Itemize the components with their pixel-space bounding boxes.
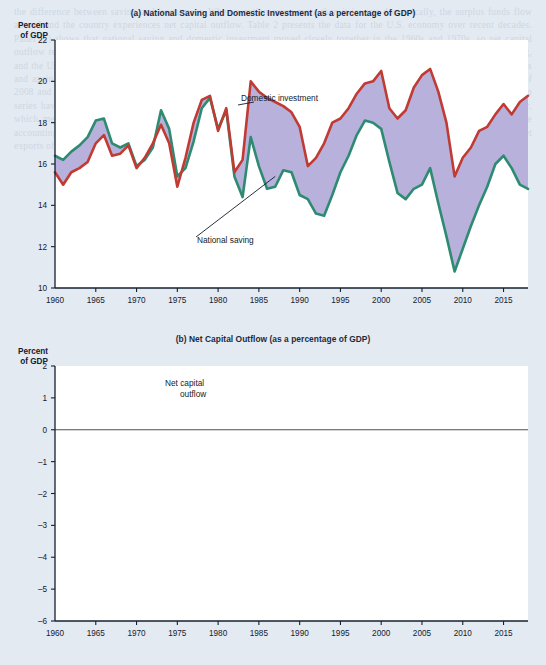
y-tick-label: 0: [42, 426, 47, 435]
x-tick-label: 2010: [454, 296, 473, 305]
panel-b-yaxis-unit-line1: Percent: [18, 347, 48, 356]
panel-a-x-ticks: 1960196519701975198019851990199520002005…: [46, 288, 513, 305]
panel-a-yaxis-unit-line1: Percent: [18, 21, 48, 30]
x-tick-label: 1995: [331, 629, 350, 638]
y-tick-label: 16: [38, 160, 48, 169]
y-tick-label: –5: [38, 585, 48, 594]
y-tick-label: –6: [38, 617, 48, 626]
panel-b-svg: Percent of GDP –6–5–4–3–2–1012 196019651…: [0, 344, 546, 664]
panel-b-x-ticks: 1960196519701975198019851990199520002005…: [46, 621, 513, 638]
x-tick-label: 1965: [87, 296, 106, 305]
panel-b: (b) Net Capital Outflow (as a percentage…: [0, 334, 546, 664]
y-tick-label: 20: [38, 77, 48, 86]
x-tick-label: 1965: [87, 629, 106, 638]
x-tick-label: 2015: [494, 629, 513, 638]
y-tick-label: 10: [38, 284, 48, 293]
y-tick-label: 14: [38, 201, 48, 210]
x-tick-label: 2010: [454, 629, 473, 638]
panel-b-chart: Percent of GDP –6–5–4–3–2–1012 196019651…: [0, 344, 546, 664]
y-tick-label: –2: [38, 490, 48, 499]
y-tick-label: 2: [42, 362, 47, 371]
y-tick-label: –1: [38, 458, 48, 467]
net-capital-outflow-label-line2: outflow: [180, 389, 207, 399]
x-tick-label: 1985: [250, 296, 269, 305]
y-tick-label: 22: [38, 36, 48, 45]
x-tick-label: 1975: [168, 629, 187, 638]
x-tick-label: 1970: [127, 296, 146, 305]
panel-a: (a) National Saving and Domestic Investm…: [0, 8, 546, 336]
x-tick-label: 2005: [413, 629, 432, 638]
y-tick-label: 1: [42, 394, 47, 403]
y-tick-label: –4: [38, 553, 48, 562]
x-tick-label: 1975: [168, 296, 187, 305]
panel-a-annotation-domestic-investment: Domestic investment: [241, 93, 319, 103]
y-tick-label: 18: [38, 119, 48, 128]
x-tick-label: 1960: [46, 296, 65, 305]
y-tick-label: 12: [38, 243, 48, 252]
panel-b-y-ticks: –6–5–4–3–2–1012: [38, 362, 55, 626]
national-saving-label: National saving: [197, 235, 254, 245]
x-tick-label: 2015: [494, 296, 513, 305]
x-tick-label: 1970: [127, 629, 146, 638]
panel-b-title: (b) Net Capital Outflow (as a percentage…: [0, 334, 546, 344]
x-tick-label: 1980: [209, 296, 228, 305]
panel-a-chart: Percent of GDP 10121416182022 1960196519…: [0, 18, 546, 336]
figure-page: the difference between saving and invest…: [0, 0, 546, 665]
x-tick-label: 2000: [372, 296, 391, 305]
panel-a-annotation-national-saving: National saving: [197, 235, 254, 245]
panel-a-title: (a) National Saving and Domestic Investm…: [0, 8, 546, 18]
x-tick-label: 1960: [46, 629, 65, 638]
panel-b-plot-area: [55, 366, 528, 621]
net-capital-outflow-label-line1: Net capital: [165, 378, 204, 388]
panel-a-svg: Percent of GDP 10121416182022 1960196519…: [0, 18, 546, 336]
x-tick-label: 1990: [291, 296, 310, 305]
x-tick-label: 1990: [291, 629, 310, 638]
x-tick-label: 2000: [372, 629, 391, 638]
x-tick-label: 2005: [413, 296, 432, 305]
domestic-investment-label: Domestic investment: [241, 93, 319, 103]
x-tick-label: 1995: [331, 296, 350, 305]
x-tick-label: 1985: [250, 629, 269, 638]
y-tick-label: –3: [38, 521, 48, 530]
panel-a-y-ticks: 10121416182022: [38, 36, 55, 293]
x-tick-label: 1980: [209, 629, 228, 638]
